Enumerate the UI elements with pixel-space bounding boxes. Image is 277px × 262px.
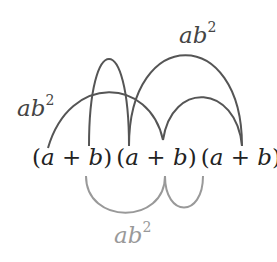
arc-b1-a2-narrow [89,59,129,146]
arc-b2-a3-lower [165,176,203,208]
label-exponent: 2 [45,92,54,108]
label-base: ab [179,22,207,48]
label-bottom: ab2 [114,222,151,248]
factor-3: (a + b) [201,144,277,170]
arc-a1-b2-left [48,92,163,148]
label-top-right: ab2 [179,22,216,48]
expansion-diagram: ab2 ab2 (a + b) (a + b) (a + b) ab2 [0,0,277,262]
arc-b1-b2-lower [86,176,165,213]
label-left: ab2 [17,95,54,121]
label-exponent: 2 [207,19,216,35]
factor-2: (a + b) [116,144,196,170]
label-exponent: 2 [142,219,151,235]
label-base: ab [114,222,142,248]
label-base: ab [17,95,45,121]
arc-b2-b3-small [163,97,242,146]
expression: (a + b) (a + b) (a + b) [32,144,277,170]
factor-1: (a + b) [32,144,112,170]
